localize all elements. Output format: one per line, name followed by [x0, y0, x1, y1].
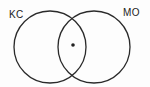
set-label-mo: MO: [123, 8, 140, 18]
set-circle-kc: [14, 11, 86, 83]
set-label-kc: KC: [9, 10, 24, 20]
set-circle-mo: [58, 11, 130, 83]
intersection-marker: [71, 43, 75, 47]
venn-diagram: KC MO: [0, 0, 150, 87]
